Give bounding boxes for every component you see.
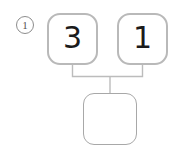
whole-box-answer[interactable] bbox=[83, 93, 137, 145]
part-box-right[interactable]: 1 bbox=[117, 13, 168, 65]
problem-number-marker: 1 bbox=[16, 16, 34, 34]
problem-number-label: 1 bbox=[22, 19, 28, 30]
part-box-left[interactable]: 3 bbox=[47, 13, 98, 65]
part-value-left: 3 bbox=[63, 23, 82, 53]
number-bond-diagram: 1 3 1 bbox=[0, 0, 180, 150]
part-value-right: 1 bbox=[133, 23, 152, 53]
